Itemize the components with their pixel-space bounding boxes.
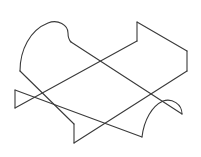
left-arc-to-bottom-step: [20, 71, 74, 124]
left-triangle-to-right-arc: [15, 90, 142, 137]
top-step-to-left-triangle: [15, 41, 137, 108]
right-top-edge: [137, 22, 187, 51]
right-arc-to-left-arc: [71, 42, 182, 114]
diagram-canvas: [0, 0, 201, 157]
right-arc-edge: [142, 100, 182, 137]
left-arc-edge: [20, 22, 71, 71]
isometric-figure: [0, 0, 201, 157]
